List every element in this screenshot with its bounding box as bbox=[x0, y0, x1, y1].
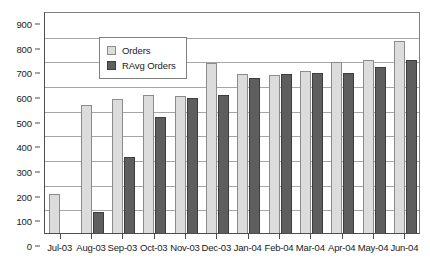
x-axis-group: Jul-03 bbox=[44, 234, 75, 266]
bar-orders-jun-04 bbox=[394, 41, 405, 233]
y-tick-label: 300 bbox=[16, 167, 32, 178]
bar-orders-feb-04 bbox=[269, 75, 280, 233]
y-tick-label: 900 bbox=[16, 19, 32, 30]
x-tick-mark bbox=[91, 234, 92, 239]
legend: Orders RAvg Orders bbox=[99, 37, 187, 79]
x-tick-label: Jun-04 bbox=[390, 242, 418, 253]
y-tick-label: 200 bbox=[16, 191, 32, 202]
y-tick-label: 0 bbox=[27, 241, 32, 252]
x-axis-group: Jun-04 bbox=[389, 234, 420, 266]
bar-orders-nov-03 bbox=[175, 96, 186, 233]
x-axis-group: Apr-04 bbox=[326, 234, 357, 266]
bar-ravg-orders-aug-03 bbox=[93, 212, 104, 233]
x-axis-group: Oct-03 bbox=[138, 234, 169, 266]
x-axis: Jul-03Aug-03Sep-03Oct-03Nov-03Dec-03Jan-… bbox=[44, 234, 420, 266]
y-tick-label: 700 bbox=[16, 68, 32, 79]
y-tick-mark bbox=[35, 24, 40, 25]
y-tick-mark bbox=[35, 98, 40, 99]
x-axis-group: Nov-03 bbox=[169, 234, 200, 266]
x-tick-mark bbox=[216, 234, 217, 239]
x-tick-mark bbox=[310, 234, 311, 239]
y-tick-mark bbox=[35, 246, 40, 247]
y-tick-label: 600 bbox=[16, 93, 32, 104]
bar-ravg-orders-feb-04 bbox=[281, 74, 292, 233]
x-tick-mark bbox=[185, 234, 186, 239]
x-tick-label: Nov-03 bbox=[170, 242, 199, 253]
y-tick-label: 100 bbox=[16, 216, 32, 227]
bar-orders-jan-04 bbox=[237, 74, 248, 233]
legend-item-orders: Orders bbox=[107, 43, 176, 58]
y-tick-mark bbox=[35, 122, 40, 123]
bar-ravg-orders-sep-03 bbox=[124, 157, 135, 233]
x-tick-mark bbox=[404, 234, 405, 239]
y-tick-label: 400 bbox=[16, 142, 32, 153]
x-tick-label: Jul-03 bbox=[47, 242, 72, 253]
bar-orders-jul-03 bbox=[49, 194, 60, 233]
legend-label-orders: Orders bbox=[122, 45, 150, 56]
x-tick-mark bbox=[342, 234, 343, 239]
bar-ravg-orders-mar-04 bbox=[312, 73, 323, 233]
x-tick-label: Oct-03 bbox=[140, 242, 167, 253]
plot-area: Orders RAvg Orders bbox=[44, 12, 420, 234]
legend-swatch-orders-icon bbox=[107, 46, 116, 55]
bar-ravg-orders-jun-04 bbox=[406, 60, 417, 233]
bar-ravg-orders-dec-03 bbox=[218, 95, 229, 233]
bar-ravg-orders-oct-03 bbox=[155, 117, 166, 233]
x-tick-label: Apr-04 bbox=[328, 242, 355, 253]
y-tick-mark bbox=[35, 147, 40, 148]
bar-ravg-orders-nov-03 bbox=[187, 98, 198, 233]
y-tick-mark bbox=[35, 221, 40, 222]
bar-orders-sep-03 bbox=[112, 99, 123, 233]
legend-swatch-ravg-orders-icon bbox=[107, 61, 116, 70]
bar-ravg-orders-jan-04 bbox=[249, 78, 260, 233]
bar-chart: 9008007006005004003002001000 Orders RAvg… bbox=[0, 0, 430, 266]
x-tick-label: May-04 bbox=[358, 242, 388, 253]
x-tick-mark bbox=[60, 234, 61, 239]
bar-orders-aug-03 bbox=[81, 105, 92, 233]
bar-orders-mar-04 bbox=[300, 71, 311, 233]
x-axis-group: Aug-03 bbox=[75, 234, 106, 266]
x-tick-mark bbox=[154, 234, 155, 239]
x-tick-label: Mar-04 bbox=[296, 242, 325, 253]
legend-item-ravg-orders: RAvg Orders bbox=[107, 58, 176, 73]
bar-orders-apr-04 bbox=[331, 62, 342, 233]
x-axis-group: May-04 bbox=[357, 234, 388, 266]
x-axis-group: Dec-03 bbox=[201, 234, 232, 266]
x-axis-group: Mar-04 bbox=[295, 234, 326, 266]
bar-orders-may-04 bbox=[363, 60, 374, 233]
y-tick-mark bbox=[35, 196, 40, 197]
bar-ravg-orders-may-04 bbox=[375, 67, 386, 233]
x-tick-mark bbox=[248, 234, 249, 239]
legend-label-ravg-orders: RAvg Orders bbox=[122, 60, 176, 71]
x-axis-group: Jan-04 bbox=[232, 234, 263, 266]
x-tick-label: Sep-03 bbox=[108, 242, 137, 253]
y-tick-mark bbox=[35, 73, 40, 74]
bar-orders-dec-03 bbox=[206, 63, 217, 233]
x-tick-label: Dec-03 bbox=[202, 242, 231, 253]
x-tick-label: Jan-04 bbox=[234, 242, 262, 253]
x-tick-label: Feb-04 bbox=[265, 242, 294, 253]
y-tick-label: 800 bbox=[16, 43, 32, 54]
y-tick-mark bbox=[35, 48, 40, 49]
x-tick-mark bbox=[279, 234, 280, 239]
bar-orders-oct-03 bbox=[143, 95, 154, 233]
y-axis: 9008007006005004003002001000 bbox=[0, 12, 40, 234]
bar-ravg-orders-apr-04 bbox=[343, 73, 354, 233]
x-axis-group: Feb-04 bbox=[263, 234, 294, 266]
x-tick-mark bbox=[373, 234, 374, 239]
x-tick-mark bbox=[122, 234, 123, 239]
x-tick-label: Aug-03 bbox=[76, 242, 105, 253]
y-tick-label: 500 bbox=[16, 117, 32, 128]
x-axis-group: Sep-03 bbox=[107, 234, 138, 266]
y-tick-mark bbox=[35, 172, 40, 173]
